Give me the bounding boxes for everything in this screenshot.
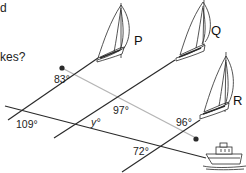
sailboat-q-label: Q bbox=[211, 24, 221, 37]
angle-label-y: y° bbox=[91, 117, 100, 128]
diagram-canvas bbox=[0, 0, 246, 173]
point-dot-left bbox=[59, 65, 64, 70]
sailboat-q-icon bbox=[176, 0, 210, 61]
angle-label-97: 97° bbox=[113, 105, 129, 116]
angle-label-96: 96° bbox=[176, 117, 192, 128]
sailboat-r-label: R bbox=[233, 94, 242, 107]
angle-label-72: 72° bbox=[133, 146, 149, 157]
question-text-fragment-1: d bbox=[0, 2, 7, 14]
question-text-fragment-2: kes? bbox=[0, 51, 25, 63]
motorboat-icon bbox=[203, 143, 246, 170]
sailboat-p-label: P bbox=[134, 34, 143, 47]
angle-label-109: 109° bbox=[16, 119, 38, 130]
line-from-q bbox=[54, 60, 175, 138]
sailboat-r-icon bbox=[200, 52, 233, 119]
point-dot-right bbox=[193, 136, 198, 141]
angle-label-83: 83° bbox=[54, 74, 70, 85]
transversal-to-boat bbox=[5, 106, 206, 158]
sailboat-p-icon bbox=[97, 3, 129, 62]
